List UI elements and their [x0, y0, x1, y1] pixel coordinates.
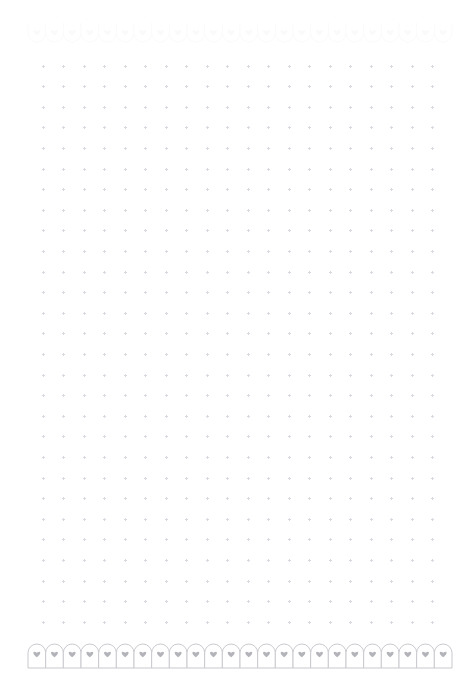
grid-dot — [247, 415, 250, 418]
grid-dot — [226, 188, 229, 191]
grid-dot — [42, 229, 45, 232]
grid-dot — [329, 271, 332, 274]
grid-dot — [247, 435, 250, 438]
grid-dot — [103, 415, 106, 418]
grid-dot — [103, 209, 106, 212]
grid-dot — [206, 580, 209, 583]
grid-dot — [247, 600, 250, 603]
grid-dot — [42, 415, 45, 418]
grid-dot — [267, 415, 270, 418]
grid-dot — [308, 312, 311, 315]
grid-dot — [247, 456, 250, 459]
grid-dot — [206, 374, 209, 377]
grid-dot — [247, 209, 250, 212]
grid-dot — [329, 415, 332, 418]
grid-dot — [185, 415, 188, 418]
grid-dot — [370, 291, 373, 294]
grid-dot — [390, 126, 393, 129]
grid-dot — [431, 559, 434, 562]
grid-dot — [83, 394, 86, 397]
grid-dot — [431, 456, 434, 459]
grid-dot — [308, 518, 311, 521]
grid-dot — [62, 538, 65, 541]
grid-dot — [124, 168, 127, 171]
grid-dot — [247, 147, 250, 150]
grid-dot — [370, 271, 373, 274]
grid-dot — [431, 168, 434, 171]
grid-dot — [267, 271, 270, 274]
grid-dot — [103, 477, 106, 480]
grid-dot — [62, 65, 65, 68]
grid-dot — [185, 106, 188, 109]
grid-dot — [103, 374, 106, 377]
grid-dot — [42, 271, 45, 274]
grid-dot — [370, 353, 373, 356]
grid-dot — [185, 394, 188, 397]
grid-dot — [144, 147, 147, 150]
grid-dot — [247, 250, 250, 253]
grid-dot — [124, 312, 127, 315]
grid-dot — [370, 126, 373, 129]
grid-dot — [308, 332, 311, 335]
grid-dot — [308, 415, 311, 418]
grid-dot — [42, 65, 45, 68]
grid-dot — [349, 353, 352, 356]
grid-dot — [329, 312, 332, 315]
grid-dot — [411, 229, 414, 232]
grid-dot — [370, 168, 373, 171]
grid-dot — [206, 435, 209, 438]
grid-dot — [144, 559, 147, 562]
grid-dot — [144, 65, 147, 68]
grid-dot — [329, 209, 332, 212]
grid-dot — [288, 188, 291, 191]
grid-dot — [329, 106, 332, 109]
grid-dot — [349, 456, 352, 459]
grid-dot — [370, 580, 373, 583]
grid-dot — [226, 435, 229, 438]
grid-dot — [288, 559, 291, 562]
grid-dot — [206, 250, 209, 253]
grid-dot — [349, 374, 352, 377]
grid-dot — [83, 271, 86, 274]
grid-dot — [144, 312, 147, 315]
grid-dot — [370, 394, 373, 397]
grid-dot — [370, 600, 373, 603]
grid-dot — [206, 271, 209, 274]
grid-dot — [349, 85, 352, 88]
bottom-decorative-border — [0, 640, 476, 672]
grid-dot — [62, 229, 65, 232]
grid-dot — [288, 332, 291, 335]
grid-dot — [62, 332, 65, 335]
grid-dot — [103, 559, 106, 562]
grid-dot — [83, 353, 86, 356]
grid-dot — [42, 332, 45, 335]
grid-dot — [411, 147, 414, 150]
grid-dot — [329, 353, 332, 356]
grid-dot — [124, 415, 127, 418]
grid-dot — [390, 147, 393, 150]
grid-dot — [103, 229, 106, 232]
grid-dot — [288, 415, 291, 418]
grid-dot — [83, 168, 86, 171]
grid-dot — [165, 65, 168, 68]
grid-dot — [165, 415, 168, 418]
grid-dot — [349, 394, 352, 397]
grid-dot — [185, 126, 188, 129]
grid-dot — [370, 106, 373, 109]
grid-dot — [62, 168, 65, 171]
grid-dot — [103, 600, 106, 603]
grid-dot — [308, 188, 311, 191]
grid-dot — [329, 332, 332, 335]
grid-dot — [226, 291, 229, 294]
grid-dot — [390, 559, 393, 562]
grid-dot — [185, 600, 188, 603]
grid-dot — [165, 497, 168, 500]
grid-dot — [431, 271, 434, 274]
grid-dot — [247, 374, 250, 377]
grid-dot — [226, 415, 229, 418]
grid-dot — [349, 65, 352, 68]
grid-dot — [390, 497, 393, 500]
grid-dot — [411, 188, 414, 191]
grid-dot — [144, 394, 147, 397]
grid-dot — [165, 147, 168, 150]
